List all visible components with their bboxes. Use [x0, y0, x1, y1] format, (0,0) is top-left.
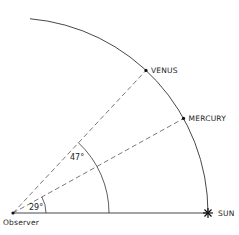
diagram-canvas: Observer SUN VENUS MERCURY 47° 29° [0, 0, 239, 235]
observer-label: Observer [3, 218, 40, 227]
mercury-point [182, 117, 185, 120]
angle-label-47: 47° [70, 153, 84, 162]
elongation-diagram: Observer SUN VENUS MERCURY 47° 29° [0, 0, 239, 235]
venus-label: VENUS [151, 66, 178, 75]
angle-label-29: 29° [29, 203, 43, 212]
sun-icon [203, 208, 213, 218]
sun-label: SUN [218, 209, 234, 218]
venus-sightline [13, 70, 146, 213]
observer-point [11, 211, 14, 214]
venus-point [144, 69, 147, 72]
orbit-arc [30, 19, 208, 213]
mercury-label: MERCURY [189, 114, 227, 123]
mercury-sightline [13, 118, 184, 213]
